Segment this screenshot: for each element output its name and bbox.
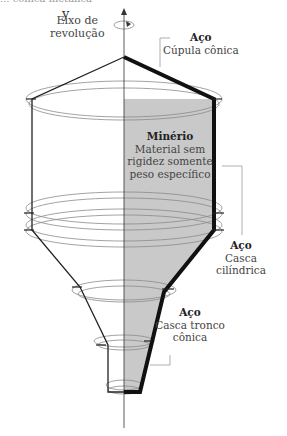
dome-part: Cúpula cônica (163, 44, 239, 57)
cylinder-line2: cilíndrica (216, 264, 266, 277)
cylinder-material: Aço (216, 239, 266, 252)
axis-label-line1: Eixo de (50, 15, 105, 28)
cylinder-line1: Casca (216, 252, 266, 265)
axis-arrow-icon (121, 8, 127, 15)
ore-label: Minério Material sem rigidez somente pes… (127, 130, 213, 180)
ore-line1: Material sem (127, 143, 213, 156)
axis-label: Eixo de revolução (50, 15, 105, 40)
cone-label: Aço Casca tronco cônica (150, 306, 230, 344)
silo-diagram: ... cônica metálica (0, 0, 287, 436)
axis-label-line2: revolução (50, 28, 105, 41)
left-outline (32, 57, 124, 392)
dome-material: Aço (163, 31, 239, 44)
silo-drawing (0, 0, 287, 436)
cone-material: Aço (150, 306, 230, 319)
ore-title: Minério (127, 130, 213, 143)
cylinder-label: Aço Casca cilíndrica (216, 239, 266, 277)
ore-line3: peso específico (127, 168, 213, 181)
cone-line1: Casca tronco (150, 319, 230, 332)
cone-line2: cônica (150, 331, 230, 344)
ore-line2: rigidez somente (127, 155, 213, 168)
dome-label: Aço Cúpula cônica (163, 31, 239, 56)
